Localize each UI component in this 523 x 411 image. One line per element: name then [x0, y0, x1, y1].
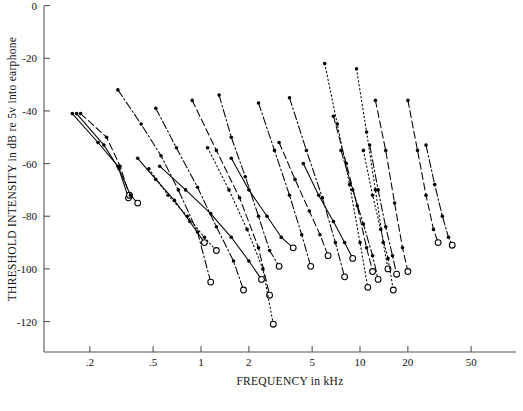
- curve-path: [341, 150, 378, 279]
- data-point-marker: [136, 157, 140, 161]
- characteristic-frequency-marker: [394, 271, 400, 277]
- curve-path: [357, 69, 389, 269]
- data-point-marker: [432, 228, 436, 232]
- characteristic-frequency-marker: [270, 321, 276, 327]
- data-point-marker: [166, 193, 170, 197]
- data-point-marker: [393, 201, 397, 205]
- data-point-marker: [362, 149, 366, 153]
- y-tick-label: -20: [22, 52, 37, 64]
- data-point-marker: [277, 141, 281, 145]
- characteristic-frequency-marker: [370, 269, 376, 275]
- characteristic-frequency-marker: [308, 263, 314, 269]
- curve-path: [192, 100, 269, 295]
- data-point-marker: [376, 188, 380, 192]
- y-tick-label: -40: [22, 105, 37, 117]
- x-tick-label: 50: [466, 356, 478, 368]
- data-point-marker: [386, 257, 390, 261]
- characteristic-frequency-marker: [390, 287, 396, 293]
- tuning-curve: [332, 114, 376, 274]
- data-point-marker: [447, 236, 451, 240]
- data-point-marker: [336, 122, 340, 126]
- data-point-marker: [424, 143, 428, 147]
- curve-path: [138, 158, 205, 242]
- tuning-curve: [406, 99, 441, 246]
- data-point-marker: [232, 259, 236, 263]
- data-point-marker: [247, 259, 251, 263]
- y-axis-title: THRESHOLD INTENSITY in dB re 5v into ear…: [6, 37, 19, 301]
- x-tick-label: 1: [198, 356, 204, 368]
- curve-path: [219, 95, 279, 266]
- data-point-marker: [96, 141, 100, 145]
- x-tick-label: 5: [309, 356, 315, 368]
- tuning-curve: [206, 146, 276, 327]
- tuning-curve: [362, 149, 397, 293]
- chart-canvas: 0-20-40-60-80-100-120.2.5125102050 FREQU…: [0, 0, 523, 411]
- data-point-marker: [175, 146, 179, 150]
- data-point-marker: [343, 241, 347, 245]
- tuning-curve: [424, 143, 455, 248]
- tuning-curve: [339, 149, 381, 283]
- characteristic-frequency-marker: [435, 240, 441, 246]
- tuning-curve: [257, 101, 314, 269]
- characteristic-frequency-marker: [135, 200, 141, 206]
- data-point-marker: [416, 149, 420, 153]
- data-point-marker: [238, 196, 242, 200]
- tuning-curve: [136, 157, 207, 246]
- characteristic-frequency-marker: [350, 256, 356, 262]
- data-point-marker: [247, 188, 251, 192]
- data-point-marker: [288, 96, 292, 100]
- data-point-marker: [184, 188, 188, 192]
- curve-path: [408, 100, 438, 242]
- data-point-marker: [318, 233, 322, 237]
- data-point-marker: [365, 130, 369, 134]
- data-point-marker: [379, 228, 383, 232]
- data-point-marker: [147, 167, 151, 171]
- data-point-marker: [209, 212, 213, 216]
- axes-group: 0-20-40-60-80-100-120.2.5125102050: [17, 0, 516, 368]
- data-point-marker: [102, 143, 106, 147]
- data-point-marker: [75, 112, 79, 116]
- tuning-curve: [154, 107, 246, 293]
- data-point-marker: [433, 183, 437, 187]
- tuning-curve: [217, 93, 282, 269]
- y-tick-label: -120: [17, 316, 38, 328]
- y-tick-label: 0: [32, 0, 38, 12]
- data-point-marker: [230, 157, 234, 161]
- data-point-marker: [129, 193, 133, 197]
- data-point-marker: [323, 62, 327, 66]
- x-axis-title: FREQUENCY in kHz: [236, 375, 343, 387]
- data-point-marker: [215, 149, 219, 153]
- data-point-marker: [158, 164, 162, 168]
- tuning-curve: [230, 157, 297, 251]
- characteristic-frequency-marker: [290, 245, 296, 251]
- data-point-marker: [117, 167, 121, 171]
- data-point-marker: [362, 222, 366, 226]
- axis-labels-group: FREQUENCY in kHzTHRESHOLD INTENSITY in d…: [6, 37, 344, 387]
- tuning-curve: [71, 112, 132, 201]
- data-point-marker: [302, 162, 306, 166]
- data-point-marker: [365, 246, 369, 250]
- data-point-marker: [116, 88, 120, 92]
- data-point-marker: [244, 175, 248, 179]
- characteristic-frequency-marker: [276, 263, 282, 269]
- data-point-marker: [230, 236, 234, 240]
- data-point-marker: [257, 246, 261, 250]
- data-point-marker: [441, 214, 445, 218]
- characteristic-frequency-marker: [342, 274, 348, 280]
- characteristic-frequency-marker: [365, 284, 371, 290]
- data-point-marker: [217, 93, 221, 97]
- data-point-marker: [351, 188, 355, 192]
- data-point-marker: [79, 112, 83, 116]
- data-point-marker: [265, 214, 269, 218]
- curve-path: [426, 145, 452, 245]
- data-point-marker: [371, 254, 375, 258]
- x-tick-label: 2: [246, 356, 252, 368]
- y-tick-label: -80: [22, 210, 37, 222]
- curve-path: [231, 158, 293, 248]
- data-point-marker: [206, 146, 210, 150]
- characteristic-frequency-marker: [259, 277, 265, 283]
- data-point-marker: [203, 236, 207, 240]
- characteristic-frequency-marker: [405, 269, 411, 275]
- characteristic-frequency-marker: [208, 279, 214, 285]
- y-tick-label: -100: [17, 263, 38, 275]
